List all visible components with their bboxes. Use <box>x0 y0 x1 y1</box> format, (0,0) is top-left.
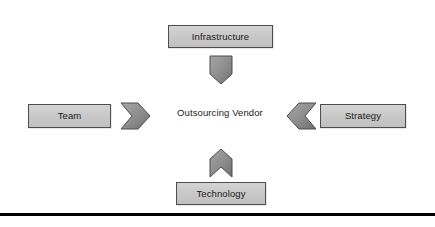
node-box-infrastructure[interactable]: Infrastructure <box>168 25 273 48</box>
node-label-technology: Technology <box>196 189 245 199</box>
arrow-left-icon <box>285 101 317 131</box>
node-box-team[interactable]: Team <box>28 104 111 128</box>
arrow-down-icon <box>207 55 235 85</box>
diagram-canvas: Infrastructure Team Outsourcing Ven <box>0 0 435 227</box>
node-label-infrastructure: Infrastructure <box>192 32 249 42</box>
center-label: Outsourcing Vendor <box>160 108 280 118</box>
bottom-divider <box>0 213 435 216</box>
arrow-up-icon <box>207 148 235 178</box>
arrow-right-icon <box>120 101 152 131</box>
node-box-strategy[interactable]: Strategy <box>320 104 406 128</box>
center-label-text: Outsourcing Vendor <box>177 107 263 118</box>
node-label-team: Team <box>58 111 82 121</box>
node-label-strategy: Strategy <box>345 111 381 121</box>
node-box-technology[interactable]: Technology <box>176 182 266 205</box>
